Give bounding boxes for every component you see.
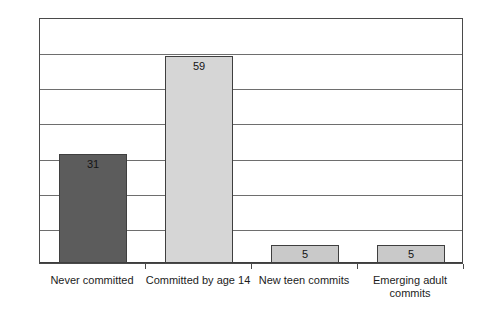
bar: 31 <box>59 154 127 263</box>
bar: 5 <box>271 245 339 263</box>
x-axis-category-label: Committed by age 14 <box>145 274 251 287</box>
x-axis-tick-mark <box>251 264 252 269</box>
bar-value-label: 5 <box>272 249 338 260</box>
x-axis-tick-mark <box>145 264 146 269</box>
bar-chart-figure: 010203040506070 315955 Never committedCo… <box>0 0 482 309</box>
x-axis-tick-mark <box>463 264 464 269</box>
x-axis-category-label: New teen commits <box>251 274 357 287</box>
gridline <box>40 89 462 90</box>
gridline <box>40 124 462 125</box>
gridline <box>40 54 462 55</box>
bar-value-label: 31 <box>60 159 126 170</box>
x-axis-tick-mark <box>357 264 358 269</box>
x-axis-category-label: Emerging adult commits <box>357 274 463 300</box>
plot-area: 315955 <box>39 18 463 264</box>
bar-value-label: 5 <box>378 249 444 260</box>
y-axis: 010203040506070 <box>0 0 39 309</box>
bar: 59 <box>165 56 233 263</box>
bar: 5 <box>377 245 445 263</box>
x-axis-category-label: Never committed <box>39 274 145 287</box>
bar-value-label: 59 <box>166 61 232 72</box>
x-axis: Never committedCommitted by age 14New te… <box>39 264 463 309</box>
